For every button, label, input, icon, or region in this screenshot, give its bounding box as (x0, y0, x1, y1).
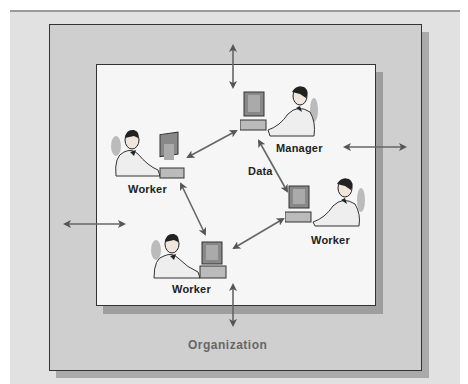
computer-icon (240, 92, 266, 130)
worker-right-label: Worker (311, 234, 350, 246)
manager-label: Manager (276, 142, 323, 154)
person-icon (111, 130, 160, 176)
worker-left-node (108, 126, 190, 180)
organization-label: Organization (188, 338, 267, 352)
worker-left-label: Worker (128, 183, 167, 195)
data-label: Data (248, 165, 273, 177)
worker-right-node (285, 176, 367, 230)
computer-icon (200, 242, 226, 278)
person-icon (151, 234, 200, 278)
worker-bottom-label: Worker (172, 283, 211, 295)
person-icon (313, 179, 365, 226)
computer-icon (285, 186, 311, 222)
worker-bottom-node (150, 228, 232, 282)
figure-caption (0, 0, 468, 4)
manager-node (240, 86, 322, 140)
computer-icon (160, 132, 184, 178)
person-icon (268, 87, 318, 136)
